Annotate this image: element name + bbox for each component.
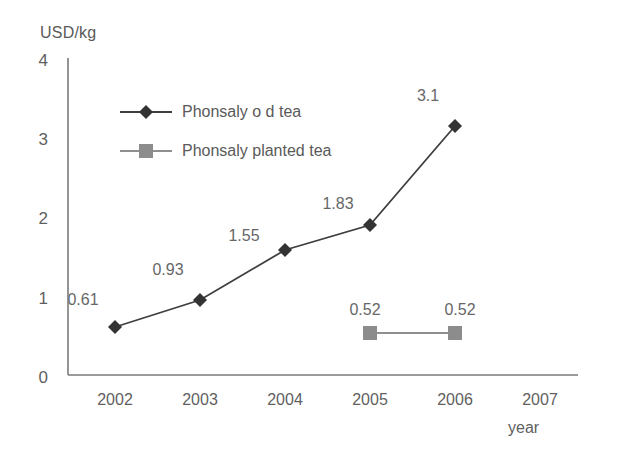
data-point-oldtea-2004: [278, 243, 292, 257]
square-marker-icon: [139, 144, 153, 158]
data-point-oldtea-2002: [108, 320, 122, 334]
plot-area: [0, 0, 621, 456]
diamond-marker-icon: [139, 105, 153, 119]
data-point-planted-2006: [448, 326, 462, 340]
series-line-old-tea: [115, 126, 455, 327]
data-point-planted-2005: [363, 326, 377, 340]
line-chart: USD/kg 4 3 2 1 0 2002 2003 2004 2005 200…: [0, 0, 621, 456]
legend: [120, 105, 172, 158]
data-point-oldtea-2003: [193, 293, 207, 307]
